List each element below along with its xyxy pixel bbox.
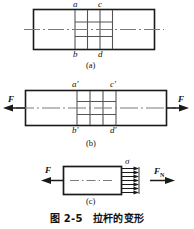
panel-a-label-d: d [98,50,103,59]
panel-b-label-c-prime: c′ [110,80,116,89]
panel-a-label-a: a [73,0,78,9]
panel-c-stress-label: σ [125,157,129,166]
panel-b-group [3,91,189,126]
panel-b-sub-caption: (b) [86,138,96,148]
panel-c-internal-force-label: FN [154,167,164,178]
engineering-diagram [0,0,194,229]
figure-caption: 图 2-5拉杆的变形 [0,210,194,225]
panel-a-sub-caption: (a) [86,60,95,70]
panel-a-group [24,10,164,50]
panel-b-label-b-prime: b′ [72,126,78,135]
caption-number: 图 2-5 [50,213,83,224]
panel-a-label-b: b [73,50,78,59]
panel-c-force-left-label: F [45,166,51,175]
panel-c-sub-caption: (c) [86,196,95,206]
panel-b-label-d-prime: d′ [110,126,116,135]
panel-c-internal-force-arrowhead [165,177,175,184]
panel-c-stress-arrows [122,167,139,195]
panel-b-force-left-label: F [8,95,14,104]
panel-b-force-right-label: F [178,95,184,104]
panel-a-label-c: c [98,0,102,9]
caption-title: 拉杆的变形 [93,213,145,224]
panel-c-force-left-arrowhead [41,177,51,184]
panel-b-label-a-prime: a′ [72,80,78,89]
figure-container: a c b d (a) a′ c′ b′ d′ F F (b) F σ FN (… [0,0,194,229]
panel-b-force-right-arrowhead [179,105,189,112]
panel-b-force-left-arrowhead [3,105,13,112]
internal-force-subscript: N [160,172,164,178]
